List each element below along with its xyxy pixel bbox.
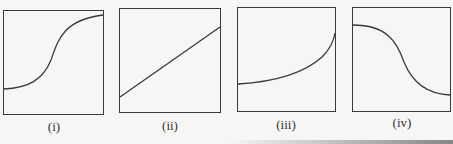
graph-frame: [4, 11, 104, 115]
graph-panel-iii: [237, 7, 336, 112]
graph-panel-ii: [119, 8, 221, 113]
linear-increasing-graph: [119, 8, 221, 113]
sigmoid-decreasing-graph: [352, 7, 451, 112]
panel-label-iii: (iii): [256, 117, 316, 133]
graph-frame: [238, 8, 336, 112]
graph-frame: [120, 9, 221, 113]
graph-frame: [353, 8, 451, 112]
graph-panel-iv: [352, 7, 451, 112]
curve-line: [120, 27, 220, 97]
panel-label-iv: (iv): [372, 115, 432, 131]
exponential-increasing-graph: [237, 7, 336, 112]
curve-line: [4, 15, 103, 89]
panel-label-i: (i): [24, 119, 84, 135]
graph-panel-i: [3, 10, 104, 115]
curve-line: [353, 25, 450, 95]
panel-label-ii: (ii): [140, 118, 200, 134]
page-edge-shadow: [0, 140, 453, 144]
sigmoid-increasing-graph: [3, 10, 104, 115]
curve-line: [238, 33, 335, 84]
